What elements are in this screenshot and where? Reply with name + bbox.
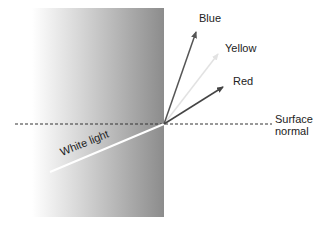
glass-block [32,8,164,217]
red-label: Red [233,75,253,87]
yellow-label: Yellow [225,42,256,54]
blue-ray [164,32,196,124]
refraction-diagram: White light Blue Yellow Red Surface norm… [0,0,326,225]
surface-normal-line1: Surface [275,113,313,125]
red-ray [164,87,223,124]
blue-label: Blue [199,12,221,24]
surface-normal-line2: normal [275,125,313,137]
surface-normal-label: Surface normal [275,113,313,137]
yellow-ray [164,54,218,124]
